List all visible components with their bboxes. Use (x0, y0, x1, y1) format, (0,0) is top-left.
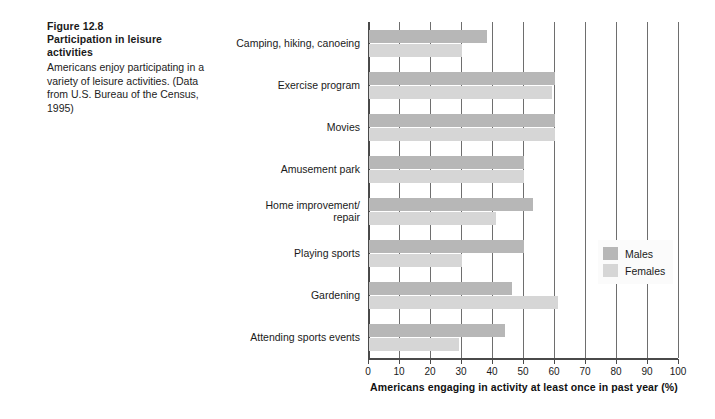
bar-females (369, 296, 558, 309)
legend-swatch-icon (603, 264, 618, 277)
bar-females (369, 128, 555, 141)
x-tick-90 (647, 359, 648, 364)
x-tick-label-40: 40 (477, 366, 507, 377)
x-tick-20 (430, 359, 431, 364)
bar-males (369, 156, 524, 169)
x-tick-50 (523, 359, 524, 364)
bar-females (369, 212, 496, 225)
legend-item: Females (603, 262, 665, 279)
category-label: Attending sports events (210, 331, 360, 344)
bar-males (369, 114, 555, 127)
x-tick-label-70: 70 (570, 366, 600, 377)
bar-group (368, 30, 678, 57)
legend-item: Males (603, 245, 665, 262)
x-tick-label-80: 80 (601, 366, 631, 377)
category-label: Amusement park (210, 163, 360, 176)
x-tick-label-100: 100 (663, 366, 693, 377)
category-label: Movies (210, 121, 360, 134)
category-label: Home improvement/ repair (210, 199, 360, 224)
x-tick-100 (678, 359, 679, 364)
bar-group (368, 114, 678, 141)
bar-group (368, 282, 678, 309)
legend-label: Females (625, 265, 665, 277)
bar-females (369, 254, 462, 267)
bar-females (369, 170, 524, 183)
bar-males (369, 30, 487, 43)
bar-group (368, 72, 678, 99)
legend-label: Males (625, 248, 653, 260)
category-label: Exercise program (210, 79, 360, 92)
category-label: Camping, hiking, canoeing (210, 37, 360, 50)
x-tick-label-30: 30 (446, 366, 476, 377)
x-tick-label-0: 0 (353, 366, 383, 377)
bar-males (369, 240, 524, 253)
plot-area: 0102030405060708090100 (368, 22, 678, 358)
bar-males (369, 282, 512, 295)
x-tick-80 (616, 359, 617, 364)
legend-swatch-icon (603, 247, 618, 260)
x-tick-30 (461, 359, 462, 364)
x-tick-70 (585, 359, 586, 364)
x-tick-label-90: 90 (632, 366, 662, 377)
x-tick-label-10: 10 (384, 366, 414, 377)
bar-females (369, 44, 462, 57)
x-tick-0 (368, 359, 369, 364)
bar-group (368, 324, 678, 351)
bar-group (368, 156, 678, 183)
bar-chart: 0102030405060708090100 Americans engagin… (0, 0, 715, 419)
x-tick-60 (554, 359, 555, 364)
x-tick-10 (399, 359, 400, 364)
bar-females (369, 338, 459, 351)
x-tick-label-60: 60 (539, 366, 569, 377)
bar-males (369, 324, 505, 337)
figure-page: Figure 12.8 Participation in leisure act… (0, 0, 715, 419)
category-label: Playing sports (210, 247, 360, 260)
gridline-100 (678, 22, 679, 358)
bar-group (368, 198, 678, 225)
bar-females (369, 86, 552, 99)
x-axis-label: Americans engaging in activity at least … (368, 381, 680, 393)
x-tick-label-20: 20 (415, 366, 445, 377)
x-tick-label-50: 50 (508, 366, 538, 377)
bar-males (369, 198, 533, 211)
chart-legend: MalesFemales (598, 240, 673, 284)
x-tick-40 (492, 359, 493, 364)
bar-males (369, 72, 555, 85)
category-label: Gardening (210, 289, 360, 302)
